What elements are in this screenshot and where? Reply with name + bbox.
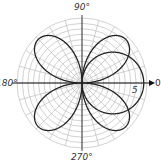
grid-spoke [82,83,115,139]
grid-spoke [36,83,82,129]
polar-chart [0,0,161,163]
grid-spoke [36,37,82,83]
radius-label-5: 5 [132,86,138,95]
grid-spoke [82,37,128,83]
grid-spoke [82,83,128,129]
grid-spoke [26,51,82,84]
grid-spoke [50,27,83,83]
angle-label-0: 0 [155,79,161,88]
angle-label-270: 270° [71,153,93,162]
grid-spoke [82,83,138,116]
angle-label-180: 180° [0,79,18,88]
grid-spoke [50,83,83,139]
grid-spoke [26,83,82,116]
grid-spoke [82,27,115,83]
angle-label-90: 90° [74,3,90,12]
grid-spoke [82,51,138,84]
